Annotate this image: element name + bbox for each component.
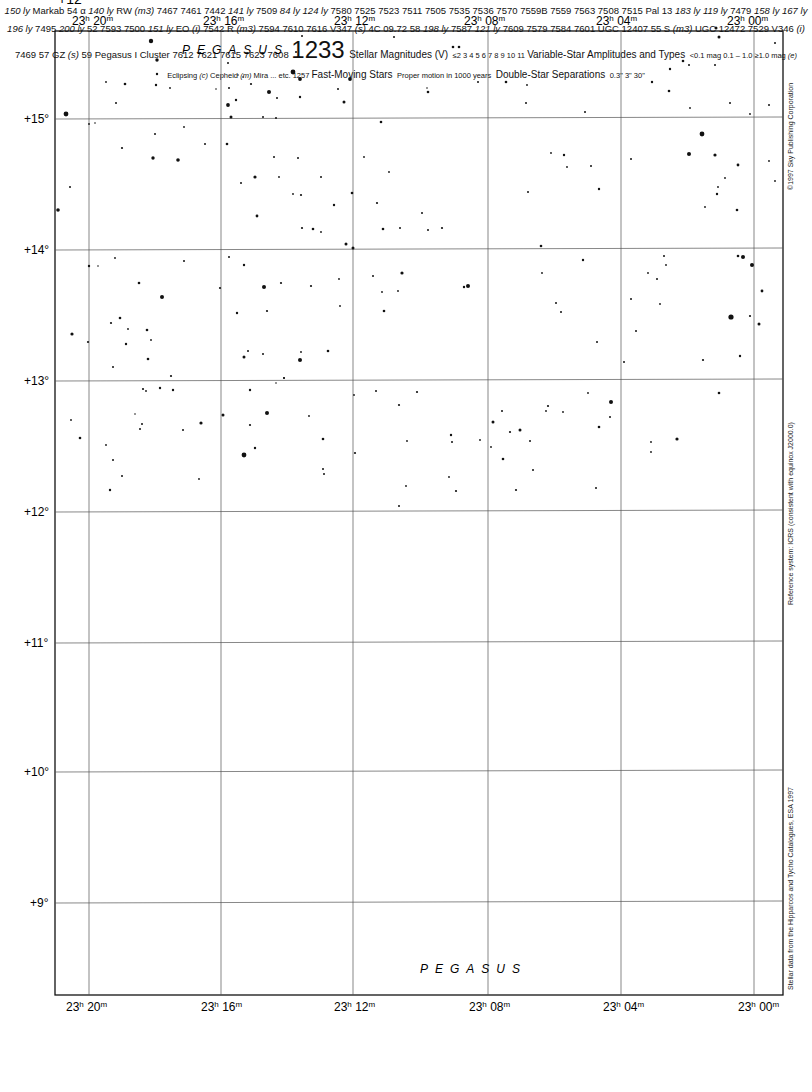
svg-text:23h 12m: 23h 12m bbox=[334, 14, 376, 28]
svg-text:23h 00m: 23h 00m bbox=[727, 14, 769, 28]
svg-text:23h 08m: 23h 08m bbox=[469, 1000, 511, 1014]
svg-text:+14°: +14° bbox=[24, 243, 49, 257]
svg-text:+12°: +12° bbox=[24, 505, 49, 519]
stars bbox=[56, 27, 776, 508]
svg-text:+13°: +13° bbox=[24, 374, 49, 388]
constellation-label-bottom: PEGASUS bbox=[420, 962, 527, 976]
chart-frame bbox=[55, 31, 783, 995]
svg-text:23h 16m: 23h 16m bbox=[203, 14, 245, 28]
constellation-label-top: PEGASUS bbox=[182, 43, 289, 57]
dec-labels: +15° +14° +13° +12° +11° +10° +9° bbox=[24, 112, 49, 910]
star-chart: +12 23h 20m 23h 16m 23h 12m 23h 08m 23h … bbox=[0, 0, 812, 1092]
dec-grid bbox=[55, 117, 783, 903]
svg-text:©1997 Sky Publishing Corporati: ©1997 Sky Publishing Corporation bbox=[787, 83, 795, 190]
svg-text:23h 08m: 23h 08m bbox=[464, 14, 506, 28]
ra-labels-bottom: 23h 20m 23h 16m 23h 12m 23h 08m 23h 04m … bbox=[66, 1000, 780, 1014]
svg-text:+15°: +15° bbox=[24, 112, 49, 126]
svg-text:+11°: +11° bbox=[24, 636, 48, 650]
svg-text:Stellar data from the Hipparco: Stellar data from the Hipparcos and Tych… bbox=[787, 787, 795, 990]
svg-text:23h 16m: 23h 16m bbox=[201, 1000, 243, 1014]
svg-text:23h 00m: 23h 00m bbox=[738, 1000, 780, 1014]
svg-text:Reference system: ICRS (consis: Reference system: ICRS (consistent with … bbox=[787, 422, 795, 605]
ra-labels-top: 23h 20m 23h 16m 23h 12m 23h 08m 23h 04m … bbox=[72, 14, 769, 28]
svg-text:23h 12m: 23h 12m bbox=[334, 1000, 376, 1014]
svg-text:23h 20m: 23h 20m bbox=[72, 14, 114, 28]
svg-text:23h 20m: 23h 20m bbox=[66, 1000, 108, 1014]
side-notes: ©1997 Sky Publishing Corporation Referen… bbox=[787, 83, 795, 990]
chart-heading-fragment: +12 bbox=[58, 0, 82, 7]
ra-grid bbox=[89, 31, 754, 995]
svg-text:+9°: +9° bbox=[30, 896, 49, 910]
svg-text:23h 04m: 23h 04m bbox=[603, 1000, 645, 1014]
svg-text:23h 04m: 23h 04m bbox=[596, 14, 638, 28]
svg-text:+10°: +10° bbox=[24, 765, 49, 779]
